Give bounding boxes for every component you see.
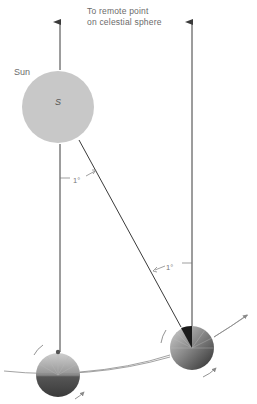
- orbit-segment-middle: [80, 355, 170, 372]
- planet-left: [36, 350, 80, 397]
- orbit-arrow-icon: [214, 315, 247, 337]
- rotation-arrow-right-bottom-icon: [203, 368, 216, 377]
- caption-line-2: on celestial sphere: [87, 17, 162, 28]
- rotation-arrow-left-bottom-icon: [75, 392, 84, 399]
- rotation-arrow-left-top-icon: [34, 345, 43, 355]
- planet-right: [170, 326, 214, 370]
- sun-letter: S: [55, 97, 61, 107]
- caption-remote-point: To remote point on celestial sphere: [87, 6, 162, 27]
- sun-label: Sun: [14, 67, 30, 77]
- caption-line-1: To remote point: [87, 6, 162, 17]
- sidereal-day-diagram: [0, 0, 257, 404]
- angle-label-2: 1°: [166, 263, 173, 272]
- observer-marker-left: [56, 350, 60, 354]
- line-sun-to-planet-right: [79, 140, 181, 327]
- angle-arc-2: [155, 263, 192, 270]
- sun-circle: [22, 71, 94, 143]
- angle-label-1: 1°: [73, 176, 80, 185]
- rotation-arrow-right-top-icon: [161, 330, 166, 343]
